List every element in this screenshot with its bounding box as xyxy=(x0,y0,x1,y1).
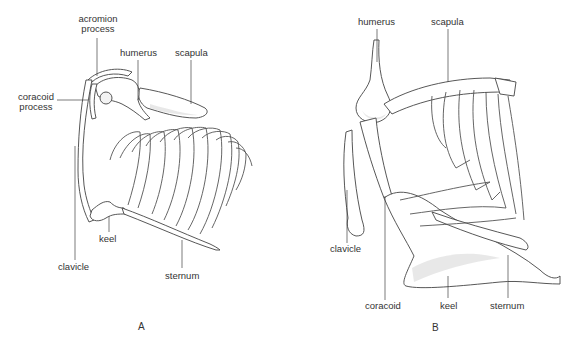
label-acromion-line2: process xyxy=(78,24,118,34)
panel-letter-b: B xyxy=(432,322,439,333)
label-coracoid-line2: process xyxy=(16,102,56,112)
b-keel-bone xyxy=(384,192,560,287)
label-b-coracoid: coracoid xyxy=(365,301,401,311)
skeleton-illustration xyxy=(0,0,574,345)
b-scapula-bone xyxy=(384,78,510,114)
a-keel-bone xyxy=(90,202,126,221)
label-a-clavicle: clavicle xyxy=(58,262,89,272)
label-a-scapula: scapula xyxy=(175,48,208,58)
a-coracoid-bone xyxy=(90,84,97,119)
label-a-sternum: sternum xyxy=(165,271,199,281)
label-b-clavicle: clavicle xyxy=(330,244,361,254)
label-acromion-process: acromion process xyxy=(78,14,118,34)
label-coracoid-process: coracoid process xyxy=(16,92,56,112)
label-a-keel: keel xyxy=(99,234,116,244)
a-rib-cage xyxy=(110,127,252,234)
label-b-humerus: humerus xyxy=(358,17,395,27)
label-b-sternum: sternum xyxy=(490,301,524,311)
panel-b-drawing xyxy=(344,29,560,300)
panel-letter-a: A xyxy=(138,321,145,332)
b-humerus-bone xyxy=(356,40,391,122)
label-a-humerus: humerus xyxy=(120,48,157,58)
panel-a-drawing xyxy=(57,38,252,268)
b-coracoid-bone xyxy=(360,118,392,198)
label-b-keel: keel xyxy=(440,301,457,311)
a-sternum-bone xyxy=(122,208,220,250)
label-b-scapula: scapula xyxy=(431,17,464,27)
a-scapula-bone xyxy=(138,88,207,118)
